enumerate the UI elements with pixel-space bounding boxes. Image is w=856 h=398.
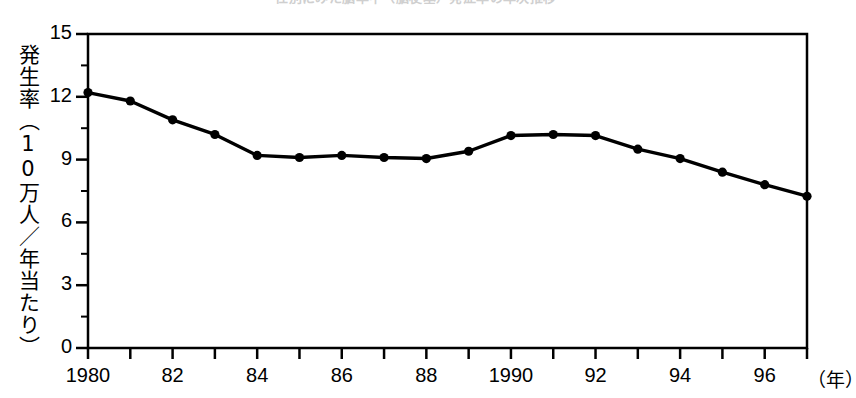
data-point (676, 154, 685, 163)
data-point (591, 131, 600, 140)
x-tick-label: 96 (725, 364, 805, 387)
data-series-line (88, 93, 807, 197)
data-point (464, 147, 473, 156)
data-point (83, 88, 92, 97)
y-tick-label: 15 (32, 21, 72, 44)
x-tick-label: 82 (133, 364, 213, 387)
y-axis-ticks (76, 34, 88, 348)
data-point (126, 96, 135, 105)
x-tick-label: 86 (302, 364, 382, 387)
data-point (633, 145, 642, 154)
x-axis-ticks (88, 348, 807, 359)
data-point (295, 153, 304, 162)
plot-frame (88, 34, 807, 348)
x-axis-unit-label: （年） (807, 365, 856, 392)
y-tick-label: 3 (32, 272, 72, 295)
data-point (210, 130, 219, 139)
x-tick-label: 1980 (48, 364, 128, 387)
data-point (253, 151, 262, 160)
x-tick-label: 94 (640, 364, 720, 387)
data-point (718, 168, 727, 177)
data-point (549, 130, 558, 139)
y-tick-label: 9 (32, 147, 72, 170)
x-tick-label: 88 (386, 364, 466, 387)
x-tick-label: 84 (217, 364, 297, 387)
data-point (422, 154, 431, 163)
data-point (506, 131, 515, 140)
y-tick-label: 0 (32, 335, 72, 358)
data-point (168, 115, 177, 124)
data-point (337, 151, 346, 160)
y-tick-label: 12 (32, 84, 72, 107)
data-point-markers (83, 88, 811, 201)
x-tick-label: 92 (556, 364, 636, 387)
data-point (379, 153, 388, 162)
x-tick-label: 1990 (471, 364, 551, 387)
data-point (802, 192, 811, 201)
data-point (760, 180, 769, 189)
y-tick-label: 6 (32, 209, 72, 232)
